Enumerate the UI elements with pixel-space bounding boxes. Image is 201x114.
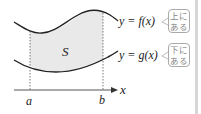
region-s-fill [30, 10, 103, 72]
bound-b-label: b [99, 93, 105, 108]
bound-a-label: a [26, 94, 32, 109]
lower-note-line-2: ある [169, 56, 189, 67]
x-axis-arrow-icon [111, 87, 118, 93]
upper-note-line-2: ある [169, 22, 189, 33]
upper-note-bubble: 上に ある [168, 9, 190, 33]
region-label: S [62, 44, 69, 60]
upper-curve-label: y = f(x) [119, 14, 155, 29]
x-axis-label: x [120, 82, 126, 98]
lower-curve-label: y = g(x) [119, 48, 158, 63]
upper-note-line-1: 上に [169, 11, 189, 22]
lower-note-line-1: 下に [169, 45, 189, 56]
lower-note-bubble: 下に ある [168, 43, 190, 67]
